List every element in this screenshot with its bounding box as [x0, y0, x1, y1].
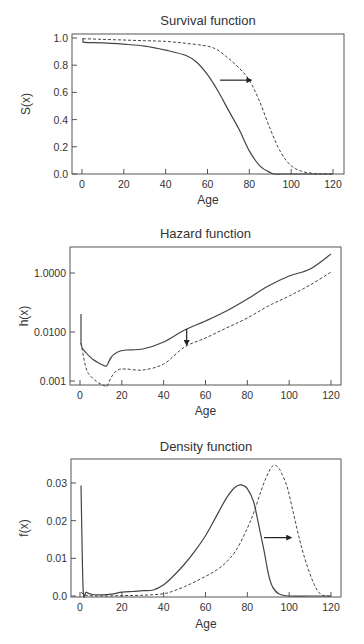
- solid-curve: [81, 485, 331, 597]
- x-tick-label: 0: [77, 601, 83, 613]
- density-plot-frame: [71, 459, 341, 597]
- solid-curve: [83, 38, 333, 174]
- y-tick-label: 0.03: [47, 477, 68, 489]
- x-tick-label: 20: [118, 178, 130, 190]
- y-tick-label: 0.4: [53, 114, 68, 126]
- density-y-axis: 0.00.010.020.03: [47, 477, 76, 602]
- hazard-y-axis: 1.00000.01000.001: [34, 267, 75, 387]
- y-tick-label: 0.8: [53, 59, 68, 71]
- x-tick-label: 120: [322, 601, 340, 613]
- dashed-curve: [81, 272, 331, 387]
- figure-canvas: Survival function 020406080100120 0.00.2…: [0, 0, 364, 644]
- x-tick-label: 0: [77, 389, 83, 401]
- x-tick-label: 60: [200, 389, 212, 401]
- hazard-x-label: Age: [195, 404, 217, 418]
- y-tick-label: 0.2: [53, 141, 68, 153]
- x-tick-label: 80: [241, 389, 253, 401]
- survival-chart-title: Survival function: [160, 13, 255, 28]
- x-tick-label: 120: [322, 389, 340, 401]
- survival-chart: Survival function 020406080100120 0.00.2…: [19, 13, 344, 207]
- x-tick-label: 80: [243, 178, 255, 190]
- y-tick-label: 0.02: [47, 515, 68, 527]
- x-tick-label: 40: [158, 601, 170, 613]
- x-tick-label: 40: [158, 389, 170, 401]
- density-x-axis: 020406080100120: [77, 592, 340, 613]
- hazard-chart: Hazard function 020406080100120 1.00000.…: [17, 226, 341, 418]
- survival-plot-frame: [72, 34, 344, 174]
- density-x-label: Age: [195, 617, 217, 631]
- x-tick-label: 40: [160, 178, 172, 190]
- x-tick-label: 0: [79, 178, 85, 190]
- y-tick-label: 0.0: [52, 590, 67, 602]
- hazard-series: [81, 254, 331, 387]
- dashed-curve: [83, 39, 333, 174]
- dashed-curve: [81, 465, 331, 596]
- x-tick-label: 120: [324, 178, 342, 190]
- x-tick-label: 100: [280, 389, 298, 401]
- x-tick-label: 100: [280, 601, 298, 613]
- survival-y-axis: 0.00.20.40.60.81.0: [53, 32, 77, 180]
- hazard-y-label: h(x): [17, 306, 31, 327]
- y-tick-label: 0.0100: [34, 326, 66, 338]
- y-tick-label: 1.0000: [34, 267, 66, 279]
- survival-series: [83, 38, 333, 174]
- hazard-plot-frame: [70, 247, 341, 385]
- hazard-chart-title: Hazard function: [160, 226, 251, 241]
- y-tick-label: 0.01: [47, 552, 68, 564]
- x-tick-label: 20: [116, 601, 128, 613]
- density-chart-title: Density function: [160, 439, 253, 454]
- y-tick-label: 0.001: [40, 375, 66, 387]
- x-tick-label: 80: [241, 601, 253, 613]
- x-tick-label: 60: [200, 601, 212, 613]
- survival-y-label: S(x): [19, 93, 33, 115]
- solid-curve: [81, 254, 331, 366]
- y-tick-label: 1.0: [53, 32, 68, 44]
- x-tick-label: 100: [282, 178, 300, 190]
- density-series: [81, 465, 331, 597]
- survival-x-axis: 020406080100120: [79, 169, 342, 190]
- density-y-label: f(x): [17, 519, 31, 536]
- figure: Survival function 020406080100120 0.00.2…: [0, 0, 364, 644]
- survival-x-label: Age: [197, 193, 219, 207]
- y-tick-label: 0.6: [53, 86, 68, 98]
- x-tick-label: 60: [202, 178, 214, 190]
- y-tick-label: 0.0: [53, 168, 68, 180]
- hazard-x-axis: 020406080100120: [77, 380, 340, 401]
- density-chart: Density function 020406080100120 0.00.01…: [17, 439, 341, 631]
- x-tick-label: 20: [116, 389, 128, 401]
